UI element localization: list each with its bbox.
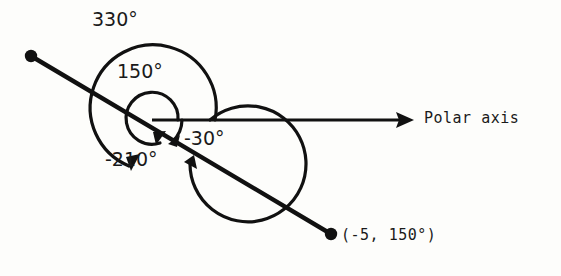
terminal-ray-line (31, 56, 331, 234)
diagram-canvas (0, 0, 561, 276)
angle-label-minus-30: -30° (184, 129, 225, 148)
polar-axis-label: Polar axis (424, 111, 519, 126)
terminal-ray-endpoint-dot-upper (25, 50, 37, 62)
point-coordinate-label: (-5, 150°) (341, 228, 436, 243)
polar-angle-diagram: 330° 150° -30° -210° Polar axis (-5, 150… (0, 0, 561, 276)
angle-label-150: 150° (117, 62, 163, 81)
point-marker-dot (325, 228, 337, 240)
angle-label-330: 330° (92, 10, 138, 29)
angle-label-minus-210: -210° (105, 150, 158, 169)
arc-minus-210-path (190, 106, 306, 222)
